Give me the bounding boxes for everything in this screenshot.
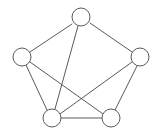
edge-top-bottom-left — [55, 26, 78, 109]
graph-node-bottom-left — [43, 109, 61, 127]
edge-right-bottom-left — [60, 62, 132, 114]
graph-node-bottom-right — [102, 109, 120, 127]
graph-figure — [0, 0, 161, 138]
graph-canvas — [0, 0, 161, 138]
graph-node-left — [13, 48, 31, 66]
graph-node-top — [72, 8, 90, 26]
node-layer — [13, 8, 149, 127]
edge-layer — [26, 23, 137, 118]
edge-right-bottom-right — [115, 66, 137, 110]
edge-left-bottom-right — [30, 62, 103, 114]
edge-top-right — [90, 23, 132, 52]
graph-node-right — [131, 48, 149, 66]
edge-top-left — [30, 24, 72, 52]
